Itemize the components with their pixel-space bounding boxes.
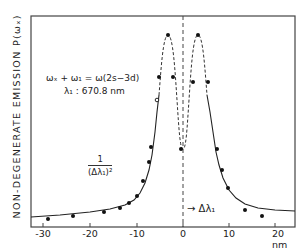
y-axis-label: NON-DEGENERATE EMISSION P(ωₓ) bbox=[11, 19, 22, 219]
x-tick-label: 0 bbox=[180, 228, 186, 239]
wavelength-label: λ₁ : 670.8 nm bbox=[64, 86, 125, 96]
x-ticks bbox=[43, 223, 275, 227]
transition-equation: ωₓ + ω₁ = ω(2s−3d) bbox=[46, 73, 139, 83]
fit-formula-numerator: 1 bbox=[88, 154, 112, 166]
delta-lambda-arrow-label: → Δλ₁ bbox=[187, 203, 215, 214]
x-tick-label: -20 bbox=[82, 228, 98, 239]
x-tick-label: 10 bbox=[223, 228, 235, 239]
x-tick-label: -30 bbox=[35, 228, 51, 239]
fit-formula: 1 (Δλ₁)² bbox=[88, 154, 112, 178]
fit-formula-denominator: (Δλ₁)² bbox=[88, 166, 112, 178]
x-tick-label: -10 bbox=[129, 228, 145, 239]
open-data-point bbox=[155, 98, 159, 102]
fit-curve-right bbox=[207, 95, 295, 211]
x-tick-label: 20 nm bbox=[272, 228, 296, 250]
